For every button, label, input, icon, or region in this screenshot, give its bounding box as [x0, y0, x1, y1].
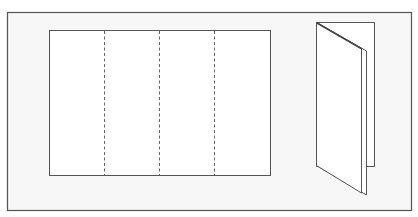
front-panel [317, 23, 362, 194]
folded-booklet [317, 23, 375, 196]
flat-sheet [50, 31, 271, 176]
diagram-canvas [0, 0, 418, 217]
brochure-fold-diagram [0, 0, 418, 217]
sheet-outline [50, 31, 271, 176]
